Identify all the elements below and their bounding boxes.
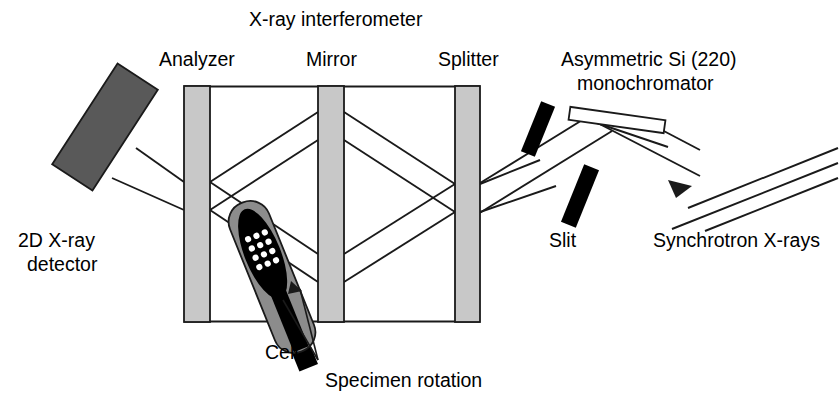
diagram-canvas: X-ray interferometer Analyzer Mirror Spl… [0, 0, 839, 406]
incoming-ray-1 [688, 148, 838, 208]
detector-label-line2: detector [27, 253, 98, 275]
xray-interferometer-figure: X-ray interferometer Analyzer Mirror Spl… [0, 0, 839, 406]
slit-label: Slit [549, 229, 577, 251]
incoming-arrowhead [668, 180, 692, 198]
beam-analyzer-detector [112, 148, 184, 210]
analyzer-blade [184, 86, 210, 322]
synchrotron-label: Synchrotron X-rays [653, 229, 820, 251]
mirror-blade [318, 86, 344, 322]
beam-sm-1 [344, 112, 455, 184]
synchrotron-incoming-rays [672, 148, 838, 231]
detector-body [52, 64, 158, 191]
beam-sm-2 [344, 184, 455, 254]
beam-sm-3 [344, 140, 455, 212]
detector-label-line1: 2D X-ray [18, 229, 95, 251]
incoming-ray-3 [705, 178, 838, 231]
interferometer-assembly [184, 86, 480, 322]
beam-ma-2 [210, 140, 318, 210]
specimen-rotation-label: Specimen rotation [325, 369, 482, 391]
analyzer-label: Analyzer [159, 48, 235, 70]
beam-ad-lower [112, 178, 184, 210]
lower-slit-bar [561, 164, 599, 227]
mirror-label: Mirror [306, 48, 357, 70]
monochromator-label-line2: monochromator [577, 72, 714, 94]
cell-label: Cell [265, 341, 299, 363]
monochromator-label-line1: Asymmetric Si (220) [561, 48, 737, 70]
splitter-blade [455, 86, 480, 322]
beam-ma-1 [210, 112, 318, 182]
beam-ad-upper [136, 148, 184, 182]
beam-splitter-mirror [344, 112, 455, 282]
splitter-label: Splitter [438, 48, 499, 70]
interferometer-title: X-ray interferometer [249, 8, 423, 30]
upper-slit-bar [521, 101, 555, 157]
splitter-entry-beams [480, 160, 556, 212]
incoming-ray-2 [672, 163, 838, 229]
beam-sm-4 [344, 212, 455, 282]
